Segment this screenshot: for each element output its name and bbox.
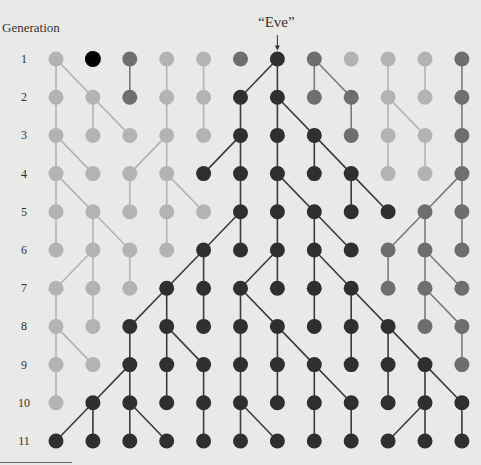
- individual-node: [233, 319, 248, 334]
- eve-node: [270, 52, 285, 67]
- individual-node: [307, 281, 322, 296]
- individual-node: [307, 319, 322, 334]
- lineage-edge: [130, 403, 167, 441]
- individual-node: [344, 52, 359, 67]
- individual-node: [122, 281, 137, 296]
- lineage-edge: [241, 403, 278, 441]
- individual-node: [270, 204, 285, 219]
- individual-node: [307, 204, 322, 219]
- lineage-edge: [204, 212, 241, 250]
- individual-node: [381, 357, 396, 372]
- individual-node: [270, 90, 285, 105]
- individual-node: [196, 243, 211, 258]
- lineage-edge: [167, 174, 204, 212]
- lineage-edge: [130, 288, 167, 326]
- individual-node: [418, 281, 433, 296]
- individual-node: [122, 357, 137, 372]
- individual-node: [159, 90, 174, 105]
- individual-node: [159, 128, 174, 143]
- lineage-edge: [241, 59, 278, 97]
- lineage-edge: [388, 212, 425, 250]
- individual-node: [49, 357, 64, 372]
- individual-node: [122, 319, 137, 334]
- individual-node: [307, 166, 322, 181]
- individual-node: [196, 166, 211, 181]
- individual-node: [196, 204, 211, 219]
- individual-nodes: [49, 51, 470, 449]
- individual-node: [270, 243, 285, 258]
- individual-node: [49, 52, 64, 67]
- genealogy-tree-diagram: [0, 0, 481, 465]
- lineage-edge: [241, 288, 278, 326]
- individual-node: [381, 128, 396, 143]
- individual-node: [344, 204, 359, 219]
- individual-node: [122, 166, 137, 181]
- individual-node: [381, 52, 396, 67]
- individual-node: [454, 204, 469, 219]
- lineage-edge: [56, 135, 93, 173]
- individual-node: [381, 281, 396, 296]
- individual-node: [196, 395, 211, 410]
- individual-node: [454, 166, 469, 181]
- individual-node: [233, 128, 248, 143]
- lineage-edge: [425, 174, 462, 212]
- individual-node: [196, 281, 211, 296]
- individual-node: [270, 395, 285, 410]
- individual-node: [307, 357, 322, 372]
- individual-node: [270, 281, 285, 296]
- lineage-edge: [277, 326, 314, 364]
- individual-node: [454, 128, 469, 143]
- individual-node: [270, 357, 285, 372]
- individual-node: [270, 128, 285, 143]
- individual-node: [85, 204, 100, 219]
- lineage-edge: [314, 212, 351, 250]
- individual-node: [159, 204, 174, 219]
- individual-node: [196, 128, 211, 143]
- individual-node: [381, 319, 396, 334]
- lineage-edge: [351, 288, 388, 326]
- individual-node: [454, 281, 469, 296]
- individual-node: [159, 319, 174, 334]
- lineage-edge: [56, 174, 93, 212]
- lineage-edge: [425, 250, 462, 288]
- individual-node: [418, 90, 433, 105]
- individual-node: [270, 434, 285, 449]
- individual-node: [344, 357, 359, 372]
- individual-node: [49, 243, 64, 258]
- individual-node: [85, 243, 100, 258]
- bottom-rule: [0, 462, 72, 463]
- individual-node: [233, 434, 248, 449]
- individual-node: [344, 90, 359, 105]
- individual-node: [454, 395, 469, 410]
- individual-node: [196, 357, 211, 372]
- individual-node: [233, 52, 248, 67]
- lineage-edge: [56, 250, 93, 288]
- individual-node: [85, 319, 100, 334]
- individual-node: [454, 243, 469, 258]
- lineage-edge: [204, 135, 241, 173]
- individual-node: [196, 319, 211, 334]
- individual-node: [159, 166, 174, 181]
- individual-node: [307, 90, 322, 105]
- eve-arrowhead-icon: [275, 46, 280, 51]
- individual-node: [307, 434, 322, 449]
- individual-node: [344, 395, 359, 410]
- lineage-edge: [425, 365, 462, 403]
- individual-node: [454, 434, 469, 449]
- individual-node: [233, 166, 248, 181]
- individual-node: [418, 319, 433, 334]
- individual-node: [344, 319, 359, 334]
- individual-node: [270, 166, 285, 181]
- individual-node: [122, 204, 137, 219]
- individual-node: [122, 128, 137, 143]
- individual-node: [307, 243, 322, 258]
- individual-node: [418, 204, 433, 219]
- individual-node: [418, 395, 433, 410]
- individual-node: [454, 319, 469, 334]
- lineage-edge: [351, 174, 388, 212]
- individual-node: [381, 204, 396, 219]
- individual-node: [344, 434, 359, 449]
- lineage-edge: [314, 365, 351, 403]
- individual-node: [49, 166, 64, 181]
- lineage-edge: [277, 174, 314, 212]
